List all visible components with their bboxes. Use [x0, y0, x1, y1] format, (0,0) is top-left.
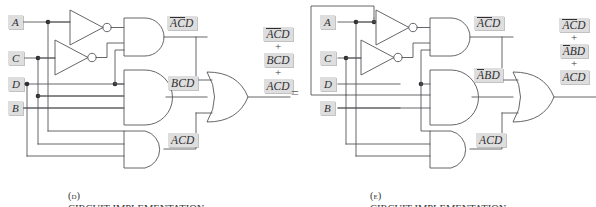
gate-label-and-top-e: ACD — [474, 16, 504, 30]
and-gate-top-body — [124, 18, 164, 56]
output-operator-1: + — [252, 41, 304, 52]
caption-panel-d-line1: CIRCUIT IMPLEMENTATION — [68, 203, 204, 207]
inverter-a-body — [70, 10, 103, 45]
input-label-c: C — [8, 51, 24, 65]
input-label-b-e: B — [320, 101, 335, 115]
output-operator-2-e: + — [552, 58, 596, 69]
output-operator-2: + — [252, 67, 304, 78]
caption-panel-d-label: (d) — [68, 190, 80, 201]
wire-d-to-and-top — [115, 50, 124, 84]
caption-panel-d: (d) CIRCUIT IMPLEMENTATION OF K-MAP (b) — [68, 176, 204, 207]
inverter-c-bubble — [88, 53, 96, 61]
junction-d — [25, 82, 30, 87]
gate-label-and-bottom-e: ACD — [476, 133, 506, 147]
caption-panel-e-line1: CIRCUIT IMPLEMENTATION — [370, 203, 506, 207]
input-label-d: D — [8, 77, 24, 91]
and-gate-middle-body — [124, 70, 173, 125]
output-term-2-e: ABD — [560, 44, 588, 58]
gate-label-and-top: ACD — [167, 16, 197, 30]
or-gate-body-e — [513, 72, 554, 122]
gate-label-and-middle-e: ABD — [474, 68, 503, 82]
caption-panel-e: (e) CIRCUIT IMPLEMENTATION OF K-MAP (c) — [370, 176, 506, 207]
and-gate-bottom-body-e — [430, 131, 466, 168]
input-label-c-e: C — [320, 51, 336, 65]
gate-label-and-bottom: ACD — [168, 133, 198, 147]
inverter-c-body-e — [361, 40, 394, 75]
equals-sign: = — [291, 86, 299, 102]
output-operator-1-e: + — [552, 32, 596, 43]
inverter-c-bubble-e — [394, 53, 402, 61]
inverter-c-body — [55, 40, 88, 75]
output-term-1: ACD — [263, 27, 292, 41]
panel-d-schematic — [22, 10, 290, 168]
output-term-3: ACD — [264, 79, 293, 93]
inverter-a-bubble — [103, 23, 111, 31]
input-label-a-e: A — [320, 15, 335, 29]
input-label-b: B — [8, 101, 23, 115]
caption-panel-e-label: (e) — [370, 190, 381, 201]
output-term-3-e: ACD — [560, 70, 589, 84]
and-gate-middle-body-e — [430, 70, 479, 125]
output-expression-d: ACD + BCD + ACD — [252, 26, 304, 93]
wire-d-to-and-top-e — [421, 50, 430, 84]
wire-d-into-and-bot-e — [421, 84, 430, 131]
output-term-1-e: ACD — [559, 18, 588, 32]
output-expression-e: ACD + ABD + ACD — [552, 17, 596, 84]
inverter-a-bubble-e — [409, 23, 417, 31]
input-label-d-e: D — [320, 77, 336, 91]
inverter-a-body-e — [376, 10, 409, 45]
and-gate-top-body-e — [430, 18, 470, 56]
gate-label-and-middle: BCD — [168, 76, 198, 90]
input-label-a: A — [8, 15, 23, 29]
and-gate-bottom-body — [124, 131, 160, 168]
output-term-2: BCD — [264, 53, 293, 67]
logic-circuit-figure: A C D B ACD BCD ACD ACD + BCD + ACD = A … — [0, 0, 596, 207]
or-gate-body — [207, 72, 248, 122]
